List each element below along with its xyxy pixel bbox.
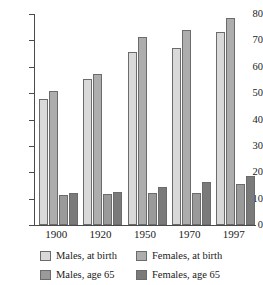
bar <box>172 48 181 225</box>
legend-label: Males, at birth <box>56 250 117 262</box>
legend-item: Males, at birth <box>40 250 136 262</box>
bar-group <box>39 14 78 225</box>
bar <box>83 79 92 225</box>
legend-swatch-icon <box>40 270 51 280</box>
bar <box>246 176 255 225</box>
bar <box>39 99 48 225</box>
legend-item: Females, age 65 <box>136 269 245 281</box>
bar <box>128 52 137 225</box>
bar <box>216 32 225 225</box>
bar <box>93 74 102 225</box>
bar-group <box>128 14 167 225</box>
x-axis-tick-label: 1997 <box>207 228 261 241</box>
bar-group <box>216 14 255 225</box>
legend-label: Males, age 65 <box>56 269 115 281</box>
bar-group <box>172 14 211 225</box>
legend-swatch-icon <box>136 270 147 280</box>
bar <box>182 30 191 225</box>
bar <box>192 193 201 225</box>
bar <box>138 37 147 225</box>
bar <box>59 195 68 225</box>
bar <box>158 187 167 225</box>
bar <box>202 182 211 225</box>
legend-swatch-icon <box>40 251 51 261</box>
plot-area <box>34 14 256 225</box>
bar <box>49 91 58 225</box>
bar <box>236 184 245 225</box>
legend-item: Males, age 65 <box>40 269 136 281</box>
legend-swatch-icon <box>136 251 147 261</box>
bar-group <box>83 14 122 225</box>
x-axis-line <box>34 225 256 226</box>
bar <box>103 194 112 225</box>
legend-label: Females, at birth <box>152 250 222 262</box>
chart-legend: Males, at birthFemales, at birthMales, a… <box>40 246 245 284</box>
legend-label: Females, age 65 <box>152 269 220 281</box>
bar <box>113 192 122 225</box>
y-axis-tick <box>29 225 34 226</box>
bar-chart: 01020304050607080 19001920195019701997 M… <box>0 0 263 285</box>
bar <box>148 193 157 225</box>
legend-item: Females, at birth <box>136 250 245 262</box>
bar <box>69 193 78 225</box>
bar <box>226 18 235 225</box>
